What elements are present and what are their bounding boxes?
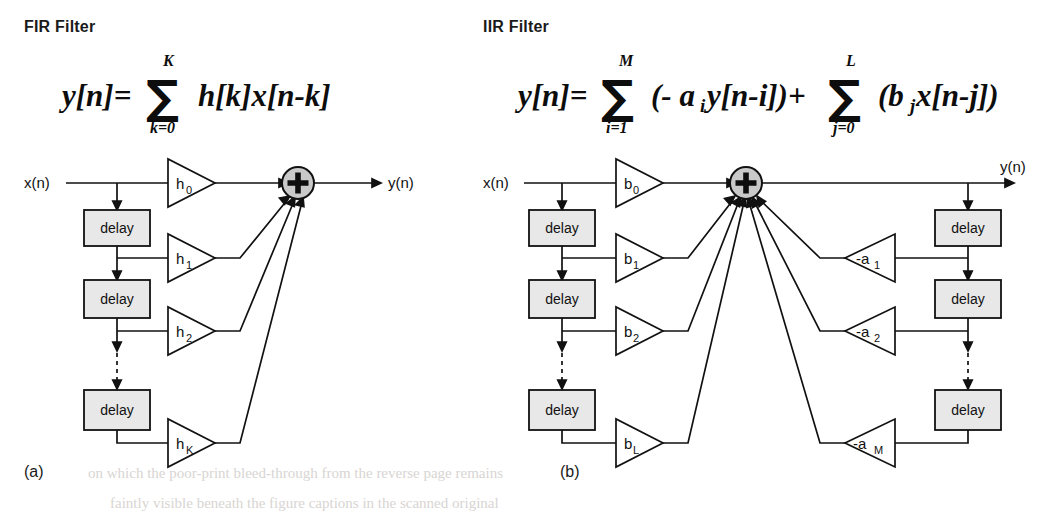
fir-gain-h2-label: h — [176, 323, 184, 340]
iir-eq-sigma-2: ∑ — [828, 70, 861, 124]
iir-gain-b1[interactable]: b 1 — [616, 234, 663, 282]
iir-gain-a2-sub: 2 — [874, 332, 880, 344]
iir-gain-b2-sub: 2 — [633, 332, 639, 344]
iir-gain-a1-sub: 1 — [874, 259, 880, 271]
iir-gain-b0[interactable]: b 0 — [616, 159, 663, 207]
iir-output-label: y(n) — [1000, 158, 1026, 175]
filter-structures-diagram: FIR Filter y[n]= ∑ K k=0 h[k]x[n-k] x(n)… — [0, 0, 1050, 531]
iir-gain-aM[interactable]: -a M — [845, 419, 895, 467]
iir-ff-chain-arrowhead-2 — [558, 342, 566, 351]
iir-eq-body-1: (- a — [651, 78, 695, 113]
fir-chain-arrowhead-1 — [113, 271, 121, 280]
iir-eq-body-2: (b — [878, 78, 904, 113]
iir-gain-bL-label: b — [624, 435, 632, 452]
iir-eq-lower-limit-2: j=0 — [830, 119, 855, 137]
iir-sum-wire-aM — [749, 202, 845, 443]
scan-bleed-through: on which the poor-print bleed-through fr… — [88, 465, 503, 511]
iir-sum-wire-a1 — [760, 200, 845, 258]
scan-artifact-line-1: on which the poor-print bleed-through fr… — [88, 465, 503, 481]
fir-delay-label-3: delay — [100, 402, 133, 418]
fir-output-label: y(n) — [388, 174, 414, 191]
fir-input-label: x(n) — [24, 174, 50, 191]
fir-eq-sigma: ∑ — [146, 70, 179, 124]
fir-eq-upper-limit: K — [162, 52, 175, 69]
fir-sum-wire-2 — [215, 201, 294, 331]
scan-artifact-line-2: faintly visible beneath the figure capti… — [110, 495, 499, 511]
fir-chain-arrowhead-3 — [113, 380, 121, 389]
iir-eq-lower-limit-1: i=1 — [606, 119, 628, 136]
iir-eq-body-2-rest: x[n-j]) — [915, 78, 999, 113]
iir-gain-a1-triangle — [845, 234, 895, 282]
fir-gain-hK[interactable]: h K — [168, 419, 215, 467]
fir-gain-h0-label: h — [176, 175, 184, 192]
fir-output-arrowhead — [372, 179, 381, 187]
fir-gain-h2[interactable]: h 2 — [168, 307, 215, 355]
iir-eq-lhs: y[n]= — [514, 78, 587, 113]
iir-gain-b1-sub: 1 — [633, 259, 639, 271]
fir-equation: y[n]= ∑ K k=0 h[k]x[n-k] — [58, 52, 331, 136]
fir-gain-h1-label: h — [176, 250, 184, 267]
iir-fb-chain-arrowhead-2 — [964, 342, 972, 351]
iir-gain-b1-label: b — [624, 250, 632, 267]
iir-fb-delay-label-3: delay — [951, 402, 984, 418]
iir-summing-junction[interactable] — [730, 167, 762, 199]
fir-summing-junction[interactable] — [282, 167, 314, 199]
fir-gain-h0[interactable]: h 0 — [168, 159, 215, 207]
fir-gain-h1-sub: 1 — [186, 259, 192, 271]
iir-gain-bL-sub: L — [633, 444, 639, 456]
iir-fb-tap-wire-3 — [895, 430, 968, 443]
iir-gain-b2-label: b — [624, 323, 632, 340]
iir-gain-b0-sub: 0 — [633, 184, 639, 196]
iir-gain-aM-label: -a — [853, 435, 867, 452]
fir-caption: (a) — [24, 463, 44, 480]
iir-ff-delay-label-2: delay — [545, 291, 578, 307]
iir-fb-chain-arrowhead-3 — [964, 380, 972, 389]
iir-input-label: x(n) — [483, 174, 509, 191]
iir-eq-upper-limit-1: M — [618, 52, 634, 69]
fir-gain-hK-label: h — [176, 435, 184, 452]
fir-heading: FIR Filter — [24, 18, 95, 35]
iir-gain-a1-label: -a — [856, 250, 870, 267]
iir-eq-body-1-sub: i — [700, 95, 706, 116]
iir-gain-a2-triangle — [845, 307, 895, 355]
fir-eq-lower-limit: k=0 — [150, 119, 175, 136]
fir-gain-h1[interactable]: h 1 — [168, 234, 215, 282]
iir-eq-upper-limit-2: L — [845, 52, 856, 69]
fir-eq-body: h[k]x[n-k] — [198, 78, 331, 113]
iir-heading: IIR Filter — [483, 18, 549, 35]
iir-ff-chain-arrowhead-3 — [558, 380, 566, 389]
fir-drop-arrowhead — [113, 201, 121, 210]
iir-ff-chain-arrowhead-1 — [558, 271, 566, 280]
fir-gain-hK-sub: K — [186, 444, 194, 456]
iir-eq-body-1-rest: y[n-i])+ — [703, 78, 806, 113]
iir-ff-delay-label-1: delay — [545, 220, 578, 236]
fir-sum-wire-3 — [215, 202, 302, 443]
iir-output-arrowhead — [1005, 179, 1014, 187]
iir-gain-a2[interactable]: -a 2 — [845, 307, 895, 355]
iir-gain-b2[interactable]: b 2 — [616, 307, 663, 355]
iir-ff-delay-label-3: delay — [545, 402, 578, 418]
iir-sum-wire-b2 — [663, 201, 739, 331]
fir-tap-wire-3 — [117, 430, 168, 443]
iir-ff-drop-arrowhead — [558, 201, 566, 210]
fir-gain-h2-sub: 2 — [186, 332, 192, 344]
iir-panel: IIR Filter y[n]= ∑ M i=1 (- a i y[n-i])+… — [483, 18, 1026, 480]
fir-chain-arrowhead-2 — [113, 342, 121, 351]
iir-fb-chain-arrowhead-1 — [964, 271, 972, 280]
iir-ff-tap-wire-3 — [562, 430, 616, 443]
iir-gain-bL[interactable]: b L — [616, 419, 663, 467]
iir-caption: (b) — [560, 463, 580, 480]
fir-gain-h0-sub: 0 — [186, 184, 192, 196]
figure-canvas: FIR Filter y[n]= ∑ K k=0 h[k]x[n-k] x(n)… — [0, 0, 1050, 531]
fir-panel: FIR Filter y[n]= ∑ K k=0 h[k]x[n-k] x(n)… — [24, 18, 414, 480]
fir-delay-label-2: delay — [100, 291, 133, 307]
iir-gain-b0-label: b — [624, 175, 632, 192]
iir-sum-wire-b1 — [663, 200, 733, 258]
iir-gain-aM-sub: M — [874, 444, 883, 456]
iir-eq-sigma-1: ∑ — [601, 70, 634, 124]
fir-delay-label-1: delay — [100, 220, 133, 236]
fir-eq-lhs: y[n]= — [58, 78, 131, 113]
iir-gain-a1[interactable]: -a 1 — [845, 234, 895, 282]
iir-fb-drop-arrowhead — [964, 201, 972, 210]
iir-fb-delay-label-2: delay — [951, 291, 984, 307]
